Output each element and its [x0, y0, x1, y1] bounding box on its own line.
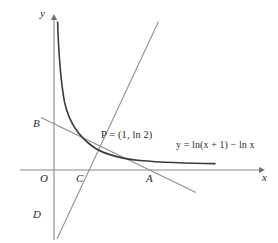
- y-axis-arrow: [51, 14, 57, 20]
- x-axis-group: [20, 167, 265, 173]
- point-label-C: C: [76, 173, 83, 184]
- diagram-canvas: [0, 0, 278, 243]
- curve-equation-label: y = ln(x + 1) − ln x: [176, 140, 255, 150]
- point-label-D: D: [33, 209, 41, 220]
- figure-container: y x O C A B D P = (1, ln 2) y = ln(x + 1…: [0, 0, 278, 243]
- point-label-O: O: [40, 173, 48, 184]
- y-axis-group: [51, 14, 57, 240]
- y-axis-label: y: [40, 8, 45, 19]
- point-label-A: A: [146, 173, 153, 184]
- x-axis-label: x: [262, 172, 267, 183]
- point-label-P: P = (1, ln 2): [101, 130, 152, 141]
- point-label-B: B: [33, 118, 40, 129]
